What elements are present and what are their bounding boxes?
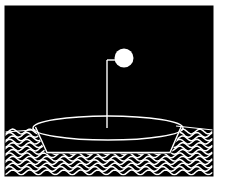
illustration-canvas <box>0 0 228 190</box>
illustration-artboard: Boat on Waves with Moon <box>0 0 228 190</box>
moon-circle <box>115 49 134 68</box>
